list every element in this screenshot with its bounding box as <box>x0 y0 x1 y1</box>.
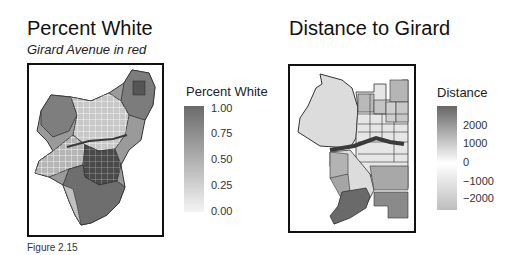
legend-tick: 1.00 <box>211 102 232 114</box>
map-distance-to-girard <box>288 64 416 233</box>
legend-title-distance: Distance <box>437 85 488 100</box>
panel-subtitle: Girard Avenue in red <box>27 42 146 57</box>
girard-area-tract-map <box>290 66 413 230</box>
legend-tick: 0.00 <box>211 205 232 217</box>
legend-colorbar-percent-white <box>184 106 204 212</box>
legend-tick: 0.75 <box>211 127 232 139</box>
legend-tick: 0.50 <box>211 153 232 165</box>
legend-tick: 2000 <box>463 119 487 131</box>
legend-title-percent-white: Percent White <box>186 84 268 99</box>
figure-caption: Figure 2.15 <box>27 242 78 253</box>
legend-tick: 1000 <box>463 137 487 149</box>
map-percent-white <box>27 63 164 237</box>
legend-colorbar-distance <box>437 106 457 210</box>
legend-tick: 0 <box>463 156 469 168</box>
legend-tick: −2000 <box>463 192 494 204</box>
panel-title-distance: Distance to Girard <box>289 17 450 39</box>
legend-tick: −1000 <box>463 175 494 187</box>
legend-tick: 0.25 <box>211 179 232 191</box>
panel-title-percent-white: Percent White <box>27 17 153 39</box>
philadelphia-tract-map <box>29 65 161 234</box>
